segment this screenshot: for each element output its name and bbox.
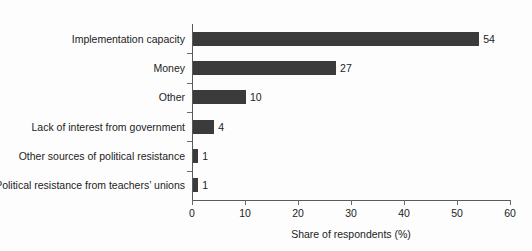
- bar[interactable]: [193, 120, 214, 134]
- bar-value-label: 54: [483, 33, 495, 45]
- bar-value-label: 10: [250, 91, 262, 103]
- x-axis-tick: [298, 200, 299, 205]
- x-axis-tick-label: 40: [398, 207, 410, 219]
- category-label: Other sources of political resistance: [19, 150, 185, 162]
- y-axis-tick: [187, 83, 192, 84]
- scan-artifact-ghost-text: [18, 2, 208, 14]
- x-axis-tick: [404, 200, 405, 205]
- category-label: Political resistance from teachers’ unio…: [0, 179, 185, 191]
- category-label: Implementation capacity: [72, 33, 185, 45]
- x-axis-tick-label: 30: [345, 207, 357, 219]
- y-axis-tick: [187, 141, 192, 142]
- x-axis-tick-label: 60: [504, 207, 516, 219]
- x-axis-tick-label: 10: [239, 207, 251, 219]
- bar[interactable]: [193, 61, 336, 75]
- category-label: Other: [159, 91, 185, 103]
- bar-value-label: 4: [218, 121, 224, 133]
- x-axis-title: Share of respondents (%): [192, 228, 510, 240]
- bar-row[interactable]: Money27: [192, 53, 510, 82]
- x-axis-tick: [457, 200, 458, 205]
- y-axis-tick: [187, 53, 192, 54]
- x-axis-tick: [351, 200, 352, 205]
- bar[interactable]: [193, 178, 198, 192]
- y-axis-tick: [187, 112, 192, 113]
- x-axis-tick-label: 20: [292, 207, 304, 219]
- bar[interactable]: [193, 32, 479, 46]
- bar-row[interactable]: Other10: [192, 83, 510, 112]
- plot-area: 0102030405060Implementation capacity54Mo…: [192, 24, 510, 200]
- y-axis-tick: [187, 171, 192, 172]
- bar[interactable]: [193, 149, 198, 163]
- x-axis-tick: [245, 200, 246, 205]
- x-axis-tick-label: 0: [189, 207, 195, 219]
- bar[interactable]: [193, 90, 246, 104]
- bar-row[interactable]: Other sources of political resistance1: [192, 141, 510, 170]
- x-axis-tick-label: 50: [451, 207, 463, 219]
- category-label: Money: [153, 62, 185, 74]
- x-axis-tick: [192, 200, 193, 205]
- bar-row[interactable]: Lack of interest from government4: [192, 112, 510, 141]
- bar-value-label: 1: [202, 150, 208, 162]
- bar-row[interactable]: Implementation capacity54: [192, 24, 510, 53]
- bar-value-label: 27: [340, 62, 352, 74]
- bar-value-label: 1: [202, 179, 208, 191]
- bar-row[interactable]: Political resistance from teachers’ unio…: [192, 171, 510, 200]
- category-label: Lack of interest from government: [32, 121, 186, 133]
- bar-chart-figure: 0102030405060Implementation capacity54Mo…: [0, 0, 532, 251]
- x-axis-tick: [510, 200, 511, 205]
